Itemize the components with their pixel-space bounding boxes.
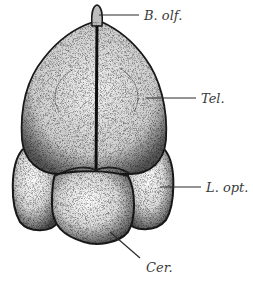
brain-illustration [0,0,253,292]
label-b-olf: B. olf. [144,9,182,22]
label-cer: Cer. [146,261,173,274]
brain-diagram: B. olf. Tel. L. opt. Cer. [0,0,253,292]
label-l-opt: L. opt. [206,181,248,194]
stipple-texture [13,22,174,244]
label-tel: Tel. [201,92,225,105]
